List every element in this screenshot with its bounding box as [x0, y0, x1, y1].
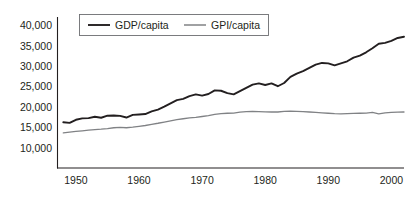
x-axis-tick-label: 1980 — [254, 174, 278, 186]
chart-container: 10,00015,00020,00025,00030,00035,00040,0… — [0, 0, 412, 200]
x-axis-tick-label: 1970 — [190, 174, 214, 186]
series-line-gdp-capita — [63, 37, 404, 123]
y-axis-tick-label: 40,000 — [20, 19, 52, 31]
y-axis-tick-labels: 10,00015,00020,00025,00030,00035,00040,0… — [20, 19, 52, 154]
data-series-group — [63, 37, 404, 133]
x-axis-tick-label: 1990 — [317, 174, 341, 186]
y-axis-tick-label: 30,000 — [20, 60, 52, 72]
x-axis-tick-label: 1960 — [127, 174, 151, 186]
legend-label-gpi-capita: GPI/capita — [211, 19, 260, 31]
x-axis-tick-label: 1950 — [64, 174, 88, 186]
y-axis-tick-label: 25,000 — [20, 80, 52, 92]
series-line-gpi-capita — [63, 111, 404, 133]
line-chart: 10,00015,00020,00025,00030,00035,00040,0… — [0, 0, 412, 200]
legend-label-gdp-capita: GDP/capita — [115, 19, 169, 31]
y-axis-tick-label: 10,000 — [20, 142, 52, 154]
x-axis-tick-labels: 195019601970198019902000 — [64, 174, 403, 186]
x-axis-tick-label: 2000 — [380, 174, 404, 186]
legend: GDP/capita GPI/capita — [80, 15, 269, 36]
y-axis-tick-label: 35,000 — [20, 40, 52, 52]
y-axis-tick-label: 15,000 — [20, 121, 52, 133]
y-axis-tick-label: 20,000 — [20, 101, 52, 113]
